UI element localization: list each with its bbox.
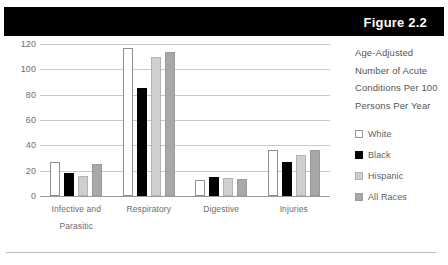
legend-item-hispanic[interactable]: Hispanic [355, 165, 448, 186]
bar-group-digestive [185, 44, 258, 196]
bar-white [268, 150, 278, 196]
bar-hispanic [151, 57, 161, 196]
x-axis-label-0: Infective andParasitic [40, 201, 113, 235]
x-axis-label-line1: Infective and [52, 204, 102, 214]
x-axis-label-line2: Parasitic [40, 218, 113, 235]
bar-all-races [165, 52, 175, 196]
legend-item-black[interactable]: Black [355, 144, 448, 165]
y-axis-tick-60: 60 [26, 115, 36, 125]
legend-swatch-hispanic-icon [355, 172, 363, 180]
y-axis: 020406080100120 [0, 44, 36, 196]
bar-black [282, 162, 292, 196]
y-axis-tick-80: 80 [26, 90, 36, 100]
bar-groups [40, 44, 330, 196]
gridline-0 [40, 196, 330, 197]
bar-group-respiratory [113, 44, 186, 196]
y-axis-tick-20: 20 [26, 166, 36, 176]
legend-label-hispanic: Hispanic [368, 171, 403, 181]
bar-black [209, 177, 219, 196]
x-axis-label-2: Digestive [185, 201, 258, 235]
bar-hispanic [223, 178, 233, 196]
figure-title-banner: Figure 2.2 [4, 7, 444, 36]
bar-white [123, 48, 133, 196]
y-axis-tick-100: 100 [21, 64, 36, 74]
x-axis-label-line1: Respiratory [126, 204, 171, 214]
x-axis-labels: Infective andParasiticRespiratory Digest… [40, 201, 330, 235]
x-axis-label-line2 [185, 218, 258, 235]
bar-group-infective-and-parasitic [40, 44, 113, 196]
bar-white [195, 180, 205, 196]
chart-grid [40, 44, 330, 196]
legend-swatch-black-icon [355, 151, 363, 159]
legend-swatch-all-races-icon [355, 193, 363, 201]
bar-hispanic [78, 176, 88, 196]
bar-group-injuries [258, 44, 331, 196]
figure-container: Figure 2.2 020406080100120 Infective and… [0, 0, 448, 265]
x-axis-label-3: Injuries [258, 201, 331, 235]
chart-legend: WhiteBlackHispanicAll Races [355, 123, 448, 207]
bar-hispanic [296, 155, 306, 196]
chart-subtitle-line-0: Age-Adjusted [355, 44, 448, 62]
x-axis-label-line1: Injuries [280, 204, 308, 214]
bottom-divider [6, 252, 436, 253]
bar-black [137, 88, 147, 196]
x-axis-label-line1: Digestive [203, 204, 239, 214]
y-axis-tick-120: 120 [21, 39, 36, 49]
chart-subtitle: Age-AdjustedNumber of AcuteConditions Pe… [355, 44, 448, 114]
legend-label-white: White [368, 129, 392, 139]
chart-subtitle-line-1: Number of Acute [355, 62, 448, 80]
legend-label-black: Black [368, 150, 391, 160]
chart-plot-area: 020406080100120 Infective andParasiticRe… [0, 44, 340, 214]
figure-title: Figure 2.2 [364, 14, 427, 29]
legend-item-all-races[interactable]: All Races [355, 186, 448, 207]
bar-all-races [92, 164, 102, 196]
y-axis-tick-0: 0 [31, 191, 36, 201]
bar-black [64, 173, 74, 196]
chart-subtitle-line-2: Conditions Per 100 [355, 79, 448, 97]
legend-item-white[interactable]: White [355, 123, 448, 144]
x-axis-label-1: Respiratory [113, 201, 186, 235]
legend-swatch-white-icon [355, 130, 363, 138]
bar-all-races [310, 150, 320, 196]
bar-all-races [237, 179, 247, 196]
chart-side-column: Age-AdjustedNumber of AcuteConditions Pe… [355, 44, 448, 207]
x-axis-label-line2 [258, 218, 331, 235]
x-axis-label-line2 [113, 218, 186, 235]
y-axis-tick-40: 40 [26, 140, 36, 150]
chart-subtitle-line-3: Persons Per Year [355, 97, 448, 115]
legend-label-all-races: All Races [368, 192, 407, 202]
bar-white [50, 162, 60, 196]
